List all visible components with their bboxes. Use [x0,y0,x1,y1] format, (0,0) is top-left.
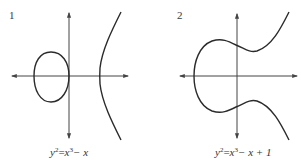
elliptic-curves-figure: 1 2 y2=x3− x y2=x3− x + 1 [0,0,301,166]
panel-2-label: 2 [177,10,183,21]
panel-1-oval-component [34,52,69,102]
panel-1-eq-tail: − x [73,146,88,158]
panel-2-graph [180,12,297,140]
panel-2-equation: y2=x3− x + 1 [215,147,271,158]
panel-1-equation: y2=x3− x [50,147,88,158]
panel-1-label: 1 [9,10,15,21]
figure-graphics [0,0,301,166]
panel-2-eq-tail: − x + 1 [238,146,271,158]
panel-1-graph [12,12,128,140]
